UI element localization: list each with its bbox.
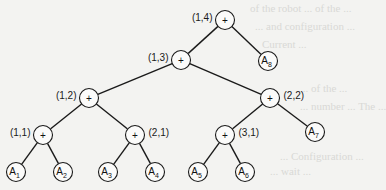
plus-symbol: + xyxy=(222,15,228,26)
leaf-node-A7: A7 xyxy=(306,123,325,142)
plus-node-n14: +(1,4) xyxy=(192,11,235,30)
leaf-node-A5: A5 xyxy=(189,163,208,182)
plus-symbol: + xyxy=(222,130,228,141)
plus-node-n13: +(1,3) xyxy=(148,51,191,70)
tree-edge-n21-A4 xyxy=(140,143,151,163)
plus-node-n22: +(2,2) xyxy=(261,89,305,108)
plus-node-n11: +(1,1) xyxy=(10,126,53,145)
node-coordinate-label: (1,2) xyxy=(56,90,77,101)
tree-edge-n31-A6 xyxy=(230,143,241,163)
tree-edge-n14-A8 xyxy=(232,27,261,55)
leaf-node-A2: A2 xyxy=(54,163,73,182)
tree-edge-n31-A5 xyxy=(204,143,220,165)
leaf-node-A1: A1 xyxy=(7,163,26,182)
leaf-node-A8: A8 xyxy=(259,52,278,71)
plus-node-n12: +(1,2) xyxy=(56,89,99,108)
plus-symbol: + xyxy=(86,93,92,104)
plus-symbol: + xyxy=(132,130,138,141)
node-coordinate-label: (1,4) xyxy=(192,12,213,23)
plus-node-n31: +(3,1) xyxy=(216,126,260,145)
tree-edge-n13-n12 xyxy=(98,64,172,95)
node-coordinate-label: (2,2) xyxy=(284,90,305,101)
plus-symbol: + xyxy=(267,93,273,104)
tree-edge-n11-A1 xyxy=(22,143,38,165)
tree-edge-n21-A3 xyxy=(114,143,130,165)
plus-symbol: + xyxy=(178,55,184,66)
node-coordinate-label: (2,1) xyxy=(149,127,170,138)
tree-edge-n14-n13 xyxy=(188,26,218,53)
tree-edge-n22-n31 xyxy=(232,104,262,129)
plus-symbol: + xyxy=(40,130,46,141)
plus-node-n21: +(2,1) xyxy=(126,126,170,145)
leaf-node-A3: A3 xyxy=(99,163,118,182)
node-coordinate-label: (3,1) xyxy=(239,127,260,138)
tree-edge-n12-n21 xyxy=(96,104,127,129)
tree-edge-n11-A2 xyxy=(48,143,59,163)
node-coordinate-label: (1,3) xyxy=(148,52,169,63)
node-coordinate-label: (1,1) xyxy=(10,127,31,138)
tree-edge-n22-A7 xyxy=(278,104,308,127)
tree-edge-n12-n11 xyxy=(50,104,81,129)
leaf-node-A6: A6 xyxy=(236,163,255,182)
leaf-node-A4: A4 xyxy=(146,163,165,182)
tree-edge-n13-n22 xyxy=(190,64,262,95)
